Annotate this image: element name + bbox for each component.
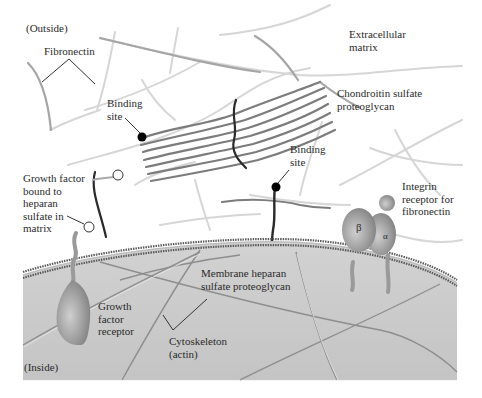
growth-factor-2: [84, 222, 94, 232]
binding-site-2-pointer: [278, 170, 289, 183]
label-outside: (Outside): [26, 22, 68, 35]
matrix-heparan-sulfate: [94, 172, 106, 237]
fibronectin-pointer: [42, 59, 95, 84]
label-alpha: α: [383, 230, 388, 243]
binding-site-1-dot: [138, 133, 147, 142]
label-cytoskeleton: Cytoskeleton (actin): [169, 335, 227, 360]
label-extracellular-matrix: Extracellular matrix: [349, 28, 406, 53]
label-binding-site-2: Binding site: [290, 143, 325, 168]
label-growth-factor-receptor: Growth factor receptor: [98, 300, 134, 338]
label-fibronectin: Fibronectin: [44, 45, 95, 58]
label-inside: (Inside): [24, 361, 58, 374]
label-integrin: Integrin receptor for fibronectin: [402, 180, 454, 218]
label-growth-factor-bound: Growth factor bound to heparan sulfate i…: [23, 172, 85, 235]
label-chondroitin: Chondroitin sulfate proteoglycan: [337, 87, 422, 112]
matrix-heparan-side: [93, 177, 115, 180]
label-binding-site-1: Binding site: [107, 97, 142, 122]
growth-factor-1: [113, 170, 123, 180]
label-membrane-heparan: Membrane heparan sulfate proteoglycan: [201, 267, 291, 292]
binding-site-2-dot: [272, 183, 281, 192]
label-beta: β: [356, 221, 362, 234]
